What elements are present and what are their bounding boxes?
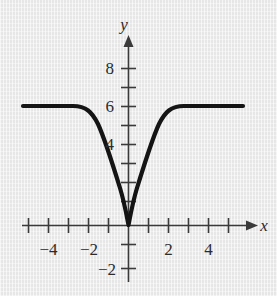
coordinate-plot: −4 −2 2 4 8 6 4 −2 y x: [0, 0, 277, 296]
x-label-2: 2: [164, 240, 173, 259]
x-label-4: 4: [204, 240, 213, 259]
y-label-6: 6: [106, 97, 115, 116]
y-label-8: 8: [106, 59, 115, 78]
x-axis-label: x: [259, 216, 268, 235]
y-axis-label: y: [118, 15, 128, 34]
x-label-minus2: −2: [80, 240, 98, 259]
function-curve: [23, 106, 243, 225]
graph-figure: −4 −2 2 4 8 6 4 −2 y x: [0, 0, 277, 296]
x-label-minus4: −4: [39, 240, 58, 259]
x-axis-arrowhead: [246, 221, 258, 231]
y-label-minus2: −2: [98, 260, 116, 279]
y-axis-arrowhead: [124, 35, 134, 47]
y-label-4: 4: [106, 135, 115, 154]
x-axis: [22, 221, 258, 231]
